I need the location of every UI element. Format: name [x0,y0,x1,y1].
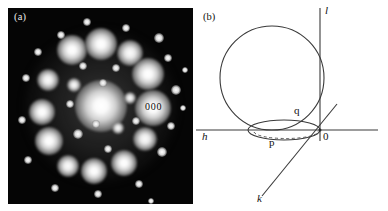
axis-k-label: k [257,192,262,204]
ewald-sphere-svg [194,0,388,211]
point-p-label: p [269,136,275,148]
panel-b-label: (b) [203,11,215,22]
axis-h-label: h [202,130,208,142]
origin-label: 0 [323,130,329,142]
origin-point-marker [319,129,322,132]
panel-b-ewald-diagram: (b) h l k p q 0 [194,0,388,211]
axis-k-line [262,104,337,196]
figure-container: (a) 000 (b) h l k p q 0 [0,0,388,211]
film-grain [8,8,193,204]
panel-a-label: (a) [14,11,26,22]
ewald-sphere-circle [220,26,324,130]
transmitted-beam-label: 000 [145,101,162,112]
axis-l-label: l [325,4,328,16]
point-q-label: q [294,104,300,116]
panel-a-diffraction-image: (a) 000 [8,8,193,204]
